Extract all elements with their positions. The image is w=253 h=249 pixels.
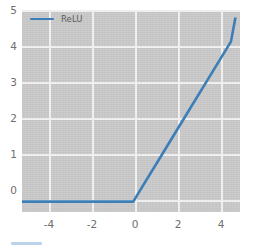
x-tick-label-neg4: -4 — [37, 219, 61, 230]
chart-legend: ReLU — [28, 14, 87, 25]
y-tick-label-1: 1 — [0, 149, 17, 160]
x-tick-label-0: 0 — [123, 219, 147, 230]
y-tick-label-0: 0 — [0, 185, 17, 196]
bottom-edge-artifact — [11, 242, 42, 245]
chart-figure: 5 4 3 2 1 0 -4 -2 0 2 4 ReLU — [0, 0, 253, 249]
legend-label-relu: ReLU — [61, 15, 83, 24]
y-tick-label-2: 2 — [0, 113, 17, 124]
x-tick-label-4: 4 — [209, 219, 233, 230]
y-tick-label-3: 3 — [0, 77, 17, 88]
x-tick-label-neg2: -2 — [80, 219, 104, 230]
y-tick-label-5: 5 — [0, 5, 17, 16]
relu-series-line — [22, 10, 240, 212]
y-tick-label-4: 4 — [0, 41, 17, 52]
x-tick-label-2: 2 — [166, 219, 190, 230]
plot-area: ReLU — [22, 10, 240, 212]
legend-line-swatch-relu — [30, 18, 54, 20]
